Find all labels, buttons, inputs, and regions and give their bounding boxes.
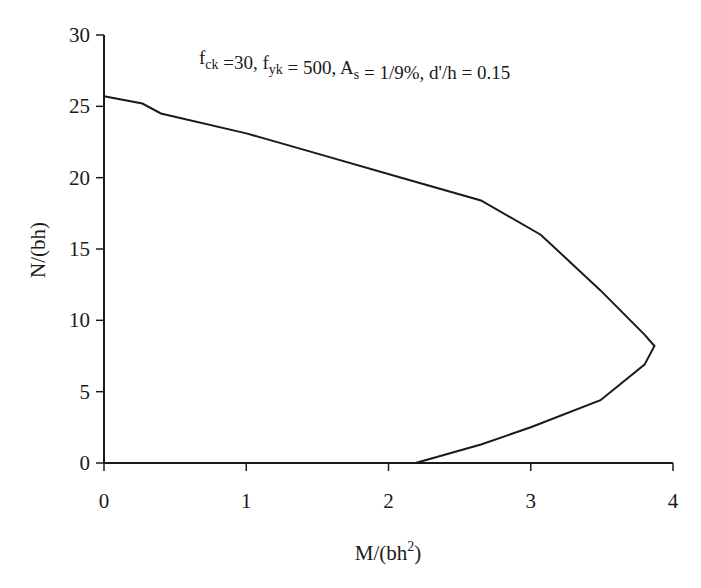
x-axis-ticks: 01234: [99, 463, 679, 513]
y-tick-label: 5: [80, 380, 91, 404]
axes: [103, 35, 673, 464]
x-tick-label: 1: [241, 489, 252, 513]
y-tick-label: 15: [69, 237, 90, 261]
interaction-diagram-chart: 051015202530 01234 fck =30, fyk = 500, A…: [0, 0, 701, 588]
x-tick-label: 3: [526, 489, 537, 513]
interaction-curve: [104, 96, 655, 463]
y-tick-label: 30: [69, 23, 90, 47]
y-axis-ticks: 051015202530: [69, 23, 104, 475]
x-tick-label: 2: [383, 489, 394, 513]
x-tick-label: 4: [668, 489, 679, 513]
y-axis-title: N/(bh): [26, 222, 50, 278]
parameters-annotation: fck =30, fyk = 500, As = 1/9%, d'/h = 0.…: [199, 47, 510, 83]
y-tick-label: 25: [69, 94, 90, 118]
x-tick-label: 0: [99, 489, 110, 513]
y-tick-label: 0: [80, 451, 91, 475]
y-tick-label: 10: [69, 308, 90, 332]
y-tick-label: 20: [69, 166, 90, 190]
x-axis-title: M/(bh2): [355, 539, 422, 565]
